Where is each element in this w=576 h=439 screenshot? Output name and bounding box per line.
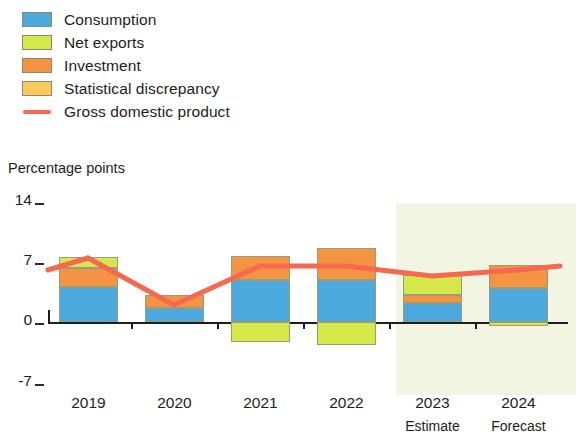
- x-axis-tick: [217, 322, 219, 329]
- chart-figure: Consumption Net exports Investment Stati…: [0, 0, 576, 439]
- plot-area: 14 7 0 -7: [0, 0, 576, 439]
- x-axis-tick: [475, 322, 477, 329]
- x-axis-label-2019: 2019: [59, 394, 118, 412]
- gdp-line-series: [0, 0, 576, 439]
- x-axis-label-2022: 2022: [317, 394, 376, 412]
- gdp-line-lead-out: [518, 266, 560, 270]
- x-axis-label-2020: 2020: [145, 394, 204, 412]
- x-axis-label-2023: 2023: [403, 394, 462, 412]
- x-axis-sublabel-estimate: Estimate: [395, 418, 470, 434]
- x-axis-tick: [303, 322, 305, 329]
- x-axis-sublabel-forecast: Forecast: [481, 418, 556, 434]
- x-axis-tick: [131, 322, 133, 329]
- gdp-line-lead-in: [48, 258, 88, 270]
- gdp-line-path: [88, 258, 518, 305]
- x-axis-label-2021: 2021: [231, 394, 290, 412]
- x-axis-tick: [389, 322, 391, 329]
- x-axis-label-2024: 2024: [489, 394, 548, 412]
